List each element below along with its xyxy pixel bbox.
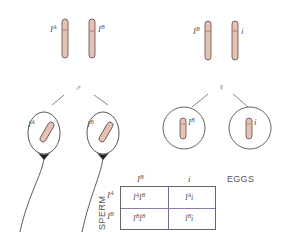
punnett-cell-r2c2: IBi bbox=[185, 214, 193, 223]
male-allele-label-1: IA bbox=[50, 24, 57, 34]
punnett-cell-r1c1: IAIB bbox=[133, 193, 145, 202]
male-branch-right bbox=[94, 95, 108, 105]
punnett-row-header-1: IA bbox=[107, 190, 114, 200]
egg-i bbox=[229, 107, 271, 149]
female-allele-label-2: i bbox=[241, 26, 244, 36]
female-symbol-icon: ♀ bbox=[218, 83, 225, 92]
male-chromosome-IA bbox=[62, 19, 68, 58]
female-branch-right bbox=[233, 94, 248, 107]
sperm-allele-label-2: IB bbox=[87, 119, 94, 129]
egg-IB bbox=[163, 107, 205, 149]
punnett-cell-r1c2: IAi bbox=[185, 193, 193, 202]
punnett-cell-r2c1: IBIB bbox=[133, 214, 145, 223]
sperm-IA bbox=[20, 112, 60, 232]
egg-allele-label-1: IB bbox=[188, 117, 195, 127]
eggs-axis-label: EGGS bbox=[227, 175, 254, 184]
female-branch-left bbox=[192, 94, 208, 107]
female-chromosome-i bbox=[232, 21, 238, 60]
punnett-col-header-1: IB bbox=[137, 174, 144, 184]
grid-divider-horizontal bbox=[121, 208, 215, 209]
male-branch-left bbox=[52, 95, 64, 105]
male-symbol-icon: ♂ bbox=[75, 84, 82, 93]
male-allele-label-2: IB bbox=[98, 24, 105, 34]
male-chromosome-IB bbox=[89, 19, 95, 58]
punnett-col-header-2: i bbox=[188, 174, 191, 184]
female-chromosome-IB bbox=[205, 21, 211, 60]
sperm-axis-label: SPERM bbox=[97, 195, 107, 230]
punnett-row-header-2: IB bbox=[107, 211, 114, 221]
egg-allele-label-2: i bbox=[254, 117, 257, 127]
punnett-square: IAIB IAi IBIB IBi bbox=[120, 186, 216, 230]
sperm-allele-label-1: IA bbox=[28, 119, 35, 129]
female-allele-label-1: IB bbox=[193, 26, 200, 36]
